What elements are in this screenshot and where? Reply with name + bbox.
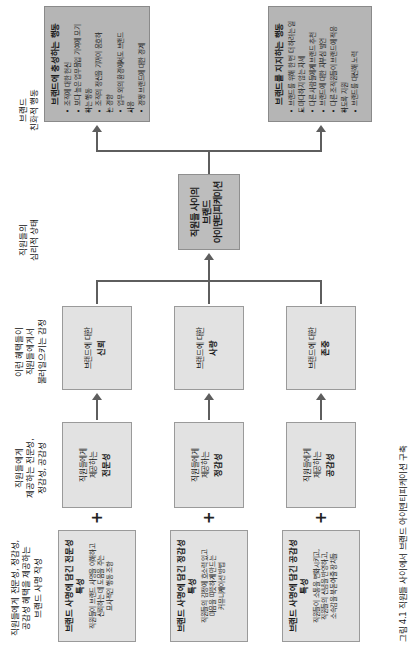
list-item: 보다 높은 업무몰입 기여에 모기 xyxy=(74,11,84,113)
outcome-box-loyalty-title: 브랜드에 충성하는 행동 xyxy=(50,11,61,117)
connector-outcome-2 xyxy=(320,130,322,152)
arrowhead-benefit-emotion-2 xyxy=(204,393,214,400)
plus-operator-1: + xyxy=(90,511,105,524)
arrowhead-benefit-emotion-3 xyxy=(316,393,326,400)
connector-outcome-1 xyxy=(96,130,98,152)
arrowhead-outcome-support xyxy=(316,125,326,132)
emotion-box-respect-label: 존중 xyxy=(320,340,331,355)
mission-box-affinity-title: 브랜드 사명에 담긴 정감성 특성 xyxy=(176,535,198,637)
column-header-psych-state: 직원들의 심리적 상태 xyxy=(18,192,41,288)
emotion-box-respect-prefix: 브랜드에 대한 xyxy=(308,327,319,369)
benefit-box-affinity-prefix: 직원들에게 제공하는 xyxy=(191,448,212,482)
identification-box-title: 직원들 사이의 브랜드 아이덴티피케이션 xyxy=(190,181,225,243)
list-item: 조직의 정신을 기꺼이 옹호하 xyxy=(95,11,105,113)
mission-box-empathy-body: 직원들이 소통을 변화시키고, 직원들의 신념을 반영하고, 소속감을 북돋아줄… xyxy=(313,549,340,623)
connector-identification-out xyxy=(208,150,210,174)
list-item-cont: 하도록 지원 xyxy=(341,11,351,113)
figure-caption: 그림 4.1 직원들 사이에서 브랜드 아이덴티피케이션 구축 xyxy=(396,446,408,642)
list-item-cont: 는 경향 xyxy=(106,11,116,113)
diagram-canvas: 직원들에게 전문성, 정감성, 공감성 혜택을 제공하는 브랜드 사명 작성 직… xyxy=(0,0,418,648)
outcome-box-support-bullets: 브랜드를 위해 한 번 더 하려는 일 도 마다하지 않는 자세 다른 사람들에… xyxy=(288,11,362,117)
benefit-box-affinity-label: 정감성 xyxy=(213,453,224,476)
list-item: 브랜드를 위해 한 번 더 하려는 일 xyxy=(288,11,298,113)
connector-emotion-merge-3 xyxy=(320,280,322,304)
list-item: 경쟁 브랜드에 대한 경계 xyxy=(138,11,148,113)
benefit-box-empathy-label: 공감성 xyxy=(325,453,336,476)
outcome-box-support-title: 브랜드를 지지하는 행동 xyxy=(274,11,285,117)
benefit-box-expertise-prefix: 직원들에게 제공하는 xyxy=(79,448,100,482)
mission-box-empathy-title: 브랜드 사명에 담긴 공감성 특성 xyxy=(288,535,310,637)
arrowhead-outcome-loyal xyxy=(92,125,102,132)
emotion-box-trust-prefix: 브랜드에 대한 xyxy=(84,327,95,369)
outcome-box-support: 브랜드를 지지하는 행동 브랜드를 위해 한 번 더 하려는 일 도 마다하지 … xyxy=(268,6,372,122)
plus-operator-3: + xyxy=(314,511,329,524)
mission-box-expertise-title: 브랜드 사명에 담긴 전문성 특성 xyxy=(64,535,86,637)
mission-box-empathy: 브랜드 사명에 담긴 공감성 특성 직원들이 소통을 변화시키고, 직원들의 신… xyxy=(282,530,360,642)
connector-benefit-emotion-3 xyxy=(320,398,322,420)
connector-outcome-bus xyxy=(96,151,322,153)
arrowhead-benefit-emotion-1 xyxy=(92,393,102,400)
column-header-emotions-evoked: 이런 혜택들이 직원들에게서 불러일으키는 감정 xyxy=(14,304,48,400)
emotion-box-love-label: 사랑 xyxy=(208,340,219,355)
identification-box: 직원들 사이의 브랜드 아이덴티피케이션 xyxy=(178,174,240,250)
connector-benefit-emotion-2 xyxy=(208,398,210,420)
benefit-box-expertise: 직원들에게 제공하는 전문성 xyxy=(62,422,132,508)
emotion-box-trust: 브랜드에 대한 신뢰 xyxy=(62,306,132,390)
list-item-cont: 사용 xyxy=(127,11,137,113)
list-item-cont: 하는 행동 xyxy=(85,11,95,113)
list-item: 다른 사람들에게 브랜드 추천 xyxy=(309,11,319,113)
list-item: 다른 조직원들이 브랜드에 적응 xyxy=(330,11,340,113)
column-header-brand-behavior: 브랜드 친화적 행동 xyxy=(18,62,41,158)
benefit-box-affinity: 직원들에게 제공하는 정감성 xyxy=(174,422,244,508)
benefit-box-expertise-label: 전문성 xyxy=(101,453,112,476)
connector-emotion-merge-2 xyxy=(208,280,210,304)
list-item: 브랜드에 대한 자부심 발언 xyxy=(319,11,329,113)
outcome-box-loyalty-bullets: 조직에 대한 헌신 보다 높은 업무몰입 기여에 모기 하는 행동 조직의 정신… xyxy=(64,11,148,117)
emotion-box-trust-label: 신뢰 xyxy=(96,340,107,355)
mission-box-affinity: 브랜드 사명에 담긴 정감성 특성 직원들의 감정에 호소력 있고 마음을 따뜻… xyxy=(170,530,248,642)
benefit-box-empathy: 직원들에게 제공하는 공감성 xyxy=(286,422,356,508)
outcome-box-loyalty: 브랜드에 충성하는 행동 조직에 대한 헌신 보다 높은 업무몰입 기여에 모기… xyxy=(44,6,150,122)
list-item: 브랜드를 대신해 노력 xyxy=(351,11,361,113)
plus-operator-2: + xyxy=(202,511,217,524)
column-header-benefits-mission: 직원들에게 전문성, 정감성, 공감성 혜택을 제공하는 브랜드 사명 작성 xyxy=(10,534,44,642)
connector-benefit-emotion-1 xyxy=(96,398,98,420)
connector-emotion-merge-1 xyxy=(96,280,98,304)
connector-bus-to-identification xyxy=(208,258,210,282)
list-item-cont: 도 마다하지 않는 자세 xyxy=(298,11,308,113)
list-item: 업무 외의 환경에서도 브랜드 xyxy=(117,11,127,113)
column-header-benefits-provided: 직원들에게 제공하는 전문성, 정감성, 공감성 xyxy=(14,420,48,516)
mission-box-expertise-body: 직원들이 브랜드 사명을 이해하고 신뢰하는 데 도움을 주는 묘사적인 행동 … xyxy=(89,543,116,628)
emotion-box-respect: 브랜드에 대한 존중 xyxy=(286,306,356,390)
emotion-box-love-prefix: 브랜드에 대한 xyxy=(196,327,207,369)
benefit-box-empathy-prefix: 직원들에게 제공하는 xyxy=(303,448,324,482)
list-item: 조직에 대한 헌신 xyxy=(64,11,74,113)
arrowhead-identification-in xyxy=(204,253,214,260)
emotion-box-love: 브랜드에 대한 사랑 xyxy=(174,306,244,390)
mission-box-expertise: 브랜드 사명에 담긴 전문성 특성 직원들이 브랜드 사명을 이해하고 신뢰하는… xyxy=(58,530,136,642)
mission-box-affinity-body: 직원들의 감정에 호소력 있고 마음을 따뜻하게 만드는 커뮤니케이션 방법 xyxy=(201,549,228,623)
